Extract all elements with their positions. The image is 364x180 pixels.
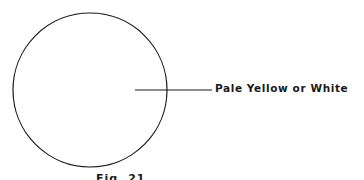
callout-label: Pale Yellow or White [215, 82, 348, 94]
figure-caption: Fig. 21 [96, 172, 145, 180]
